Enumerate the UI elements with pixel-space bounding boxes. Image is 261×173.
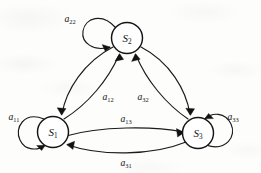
self-loop-label-a11-sub: 11	[13, 116, 19, 123]
node-s3[interactable]: S3	[183, 118, 214, 149]
state-transition-diagram-figure: a12 a32 a13 a3	[0, 0, 261, 173]
self-loop-a22-path	[83, 18, 116, 48]
node-s2-label-sub: 2	[128, 38, 132, 46]
node-s1-label-sub: 1	[54, 132, 58, 140]
self-loop-label-a22-sub: 22	[69, 18, 75, 25]
edge-label-a13: a13	[120, 113, 131, 125]
node-s3-label-sub: 3	[199, 133, 203, 141]
self-loop-a11-arrowhead	[37, 145, 46, 150]
edge-s2-to-s3-path	[141, 47, 190, 114]
self-loop-label-a33: a33	[227, 111, 238, 123]
edge-s3-to-s1: a31	[67, 141, 186, 169]
edge-s1-to-s2-arrowhead	[115, 54, 124, 62]
edge-s3-to-s2: a32	[132, 54, 188, 119]
edge-s3-to-s2-arrowhead	[132, 54, 141, 62]
edge-label-a12: a12	[102, 91, 113, 103]
edge-label-a13-sub: 13	[125, 118, 131, 125]
edge-label-a32: a32	[137, 91, 148, 103]
edge-s3-to-s1-arrowhead	[67, 141, 75, 149]
edge-s2-to-s1-arrowhead	[57, 108, 66, 115]
edge-s2-to-s3-arrowhead	[186, 108, 195, 115]
self-loop-label-a11: a11	[9, 111, 20, 123]
edge-label-a12-sub: 12	[107, 96, 113, 103]
edge-label-a32-sub: 32	[142, 96, 148, 103]
edge-s1-to-s3: a13	[66, 113, 184, 137]
edge-s1-to-s2: a12	[64, 54, 124, 119]
edge-s2-to-s1-path	[62, 47, 113, 114]
edge-s2-to-s3	[141, 47, 195, 115]
edge-label-a31: a31	[120, 157, 131, 169]
diagram-canvas: a12 a32 a13 a3	[0, 0, 261, 173]
node-s2[interactable]: S2	[112, 23, 143, 54]
self-loop-label-a22: a22	[64, 13, 75, 25]
node-s1[interactable]: S1	[38, 117, 69, 148]
self-loop-a22	[83, 18, 116, 51]
self-loop-label-a33-sub: 33	[232, 116, 238, 123]
edge-label-a31-sub: 31	[125, 162, 131, 169]
edge-s1-to-s3-path	[66, 128, 183, 136]
edge-s3-to-s1-path	[68, 142, 186, 153]
